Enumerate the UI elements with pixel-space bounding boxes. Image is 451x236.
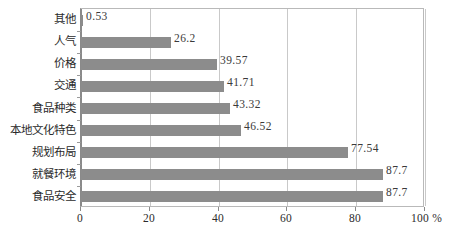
x-axis-tick-0	[80, 207, 81, 211]
category-label: 其他	[2, 13, 76, 25]
category-axis: 其他人气价格交通食品种类本地文化特色规划布局就餐环境食品安全	[0, 8, 451, 207]
x-axis-label-100: 100 %	[411, 212, 442, 225]
x-axis-label-40: 40	[212, 212, 224, 225]
x-axis-label-20: 20	[143, 212, 155, 225]
x-axis-label-60: 60	[280, 212, 292, 225]
x-axis-tick-40	[218, 207, 219, 211]
category-label: 规划布局	[2, 146, 76, 158]
x-axis-tick-80	[355, 207, 356, 211]
x-axis-tick-60	[286, 207, 287, 211]
category-label: 人气	[2, 35, 76, 47]
x-axis-label-0: 0	[77, 212, 83, 225]
x-axis-tick-20	[149, 207, 150, 211]
x-axis-label-80: 80	[349, 212, 361, 225]
x-axis: 020406080100 %	[80, 207, 424, 233]
category-label: 交通	[2, 79, 76, 91]
category-label: 食品安全	[2, 190, 76, 202]
category-label: 价格	[2, 57, 76, 69]
x-axis-tick-100	[424, 207, 425, 211]
category-label: 本地文化特色	[2, 124, 76, 136]
category-label: 食品种类	[2, 102, 76, 114]
category-label: 就餐环境	[2, 168, 76, 180]
horizontal-bar-chart: 0.5326.239.5741.7143.3246.5277.5487.787.…	[0, 0, 451, 236]
